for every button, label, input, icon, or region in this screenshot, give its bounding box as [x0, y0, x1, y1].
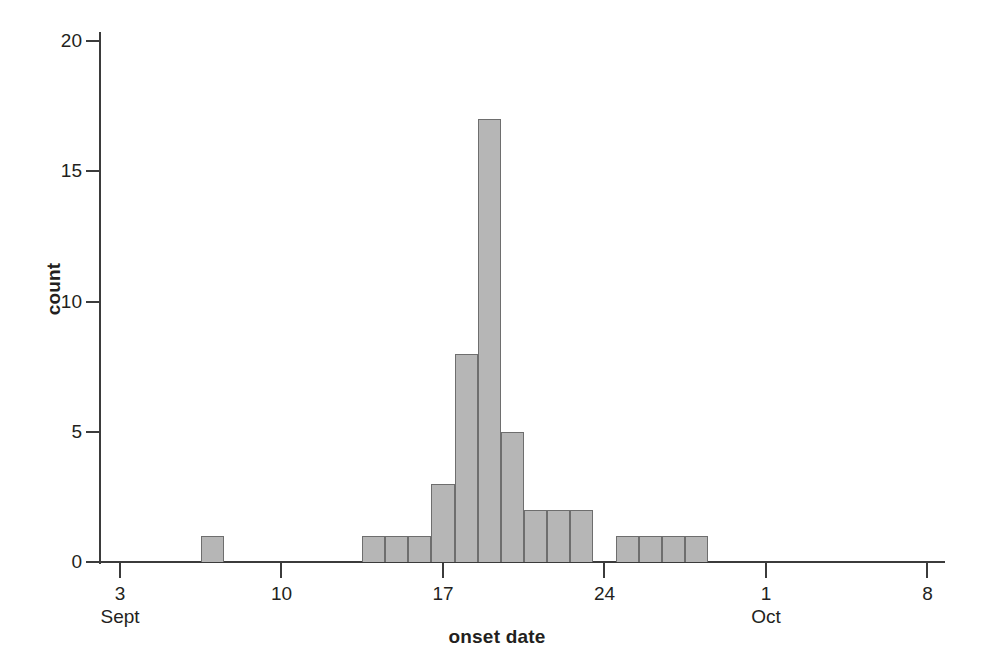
chart-marks-layer: 3Sept1017241Oct8 [0, 0, 994, 672]
histogram-bar [408, 536, 431, 562]
histogram-bar [501, 432, 524, 562]
y-axis-tick [86, 170, 100, 172]
x-axis-tick-label: 10 [241, 583, 321, 605]
histogram-bar [478, 119, 501, 562]
histogram-bar [685, 536, 708, 562]
x-axis-tick [442, 563, 444, 578]
histogram-bar [455, 354, 478, 562]
x-axis-month-label: Oct [721, 606, 811, 628]
histogram-bar [570, 510, 593, 562]
x-axis-tick [765, 563, 767, 578]
x-axis-tick [926, 563, 928, 578]
x-axis-title: onset date [0, 626, 994, 648]
x-axis-tick [280, 563, 282, 578]
x-axis-tick-label: 8 [887, 583, 967, 605]
histogram-bar [362, 536, 385, 562]
histogram-figure: count 05101520 3Sept1017241Oct8 onset da… [0, 0, 994, 672]
y-axis-tick [86, 301, 100, 303]
y-axis-tick [86, 431, 100, 433]
x-axis-tick-label: 17 [403, 583, 483, 605]
histogram-bar [662, 536, 685, 562]
histogram-bar [524, 510, 547, 562]
histogram-bar [201, 536, 224, 562]
histogram-bar [639, 536, 662, 562]
y-axis-tick [86, 561, 100, 563]
x-axis-tick-label: 1 [726, 583, 806, 605]
x-axis-month-label: Sept [75, 606, 165, 628]
x-axis-tick-label: 24 [564, 583, 644, 605]
histogram-bar [547, 510, 570, 562]
x-axis-tick-label: 3 [80, 583, 160, 605]
histogram-bar [431, 484, 454, 562]
y-axis-tick [86, 40, 100, 42]
x-axis-tick [119, 563, 121, 578]
histogram-bar [385, 536, 408, 562]
x-axis-tick [603, 563, 605, 578]
histogram-bar [616, 536, 639, 562]
